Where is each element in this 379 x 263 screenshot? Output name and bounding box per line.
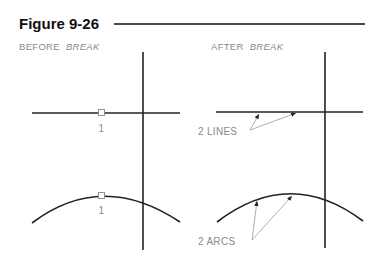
before-caption-prefix: BEFORE — [19, 41, 60, 52]
panel-after: AFTERBREAK 2 LINES 2 ARCS — [198, 41, 363, 248]
arcs-leader-arrow-2 — [252, 196, 292, 240]
after-arcs-label: 2 ARCS — [198, 236, 235, 247]
figure-title: Figure 9-26 — [19, 15, 99, 32]
before-arc-pick-label: 1 — [99, 205, 105, 216]
lines-leader-arrow-2 — [250, 113, 296, 130]
before-caption-command: BREAK — [66, 41, 100, 52]
figure-drawing: Figure 9-26 BEFOREBREAK 1 1 AFTERBREAK 2… — [0, 0, 379, 263]
before-line-pick-label: 1 — [99, 123, 105, 134]
figure-canvas: Figure 9-26 BEFOREBREAK 1 1 AFTERBREAK 2… — [0, 0, 379, 263]
lines-leader-arrow-1 — [250, 114, 259, 130]
before-arc-pick-box — [99, 193, 105, 199]
after-caption-command: BREAK — [250, 41, 284, 52]
after-caption: AFTERBREAK — [211, 41, 284, 52]
panel-before: BEFOREBREAK 1 1 — [19, 41, 180, 250]
before-caption: BEFOREBREAK — [19, 41, 100, 52]
before-line-pick-box — [99, 110, 105, 116]
after-lines-label: 2 LINES — [198, 126, 237, 137]
arcs-leader-arrow-1 — [252, 201, 257, 240]
before-arc — [32, 196, 180, 223]
after-caption-prefix: AFTER — [211, 41, 244, 52]
